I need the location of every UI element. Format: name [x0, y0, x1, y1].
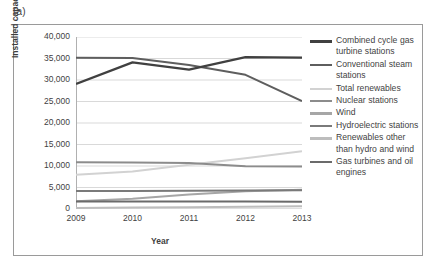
x-tick-label: 2010 [113, 213, 153, 223]
legend-label: Renewables other than hydro and wind [336, 132, 420, 155]
x-tick-label: 2013 [282, 213, 322, 223]
legend-item[interactable]: Wind [310, 107, 420, 118]
y-axis-ticks: 05,00010,00015,00020,00025,00030,00035,0… [22, 37, 70, 209]
y-tick-label: 10,000 [24, 160, 70, 170]
chart-figure: (a) Installed capacity (MW) 05,00010,000… [0, 0, 437, 273]
legend-item[interactable]: Combined cycle gas turbine stations [310, 35, 420, 58]
legend-swatch-icon [310, 137, 332, 139]
x-axis-title: Year [44, 236, 276, 246]
y-tick-label: 30,000 [24, 74, 70, 84]
y-tick-label: 20,000 [24, 117, 70, 127]
y-tick-label: 25,000 [24, 96, 70, 106]
legend-item[interactable]: Renewables other than hydro and wind [310, 132, 420, 155]
x-tick-label: 2011 [169, 213, 209, 223]
chart-frame: Installed capacity (MW) 05,00010,00015,0… [13, 24, 423, 256]
series-line [76, 206, 302, 208]
legend-swatch-icon [310, 40, 332, 43]
plot-area [76, 37, 302, 209]
legend-label: Combined cycle gas turbine stations [336, 35, 420, 58]
legend-label: Hydroelectric stations [336, 120, 418, 131]
legend-swatch-icon [310, 100, 332, 102]
x-tick-label: 2009 [56, 213, 96, 223]
legend-item[interactable]: Hydroelectric stations [310, 120, 420, 131]
legend-item[interactable]: Gas turbines and oil engines [310, 156, 420, 179]
series-line [76, 58, 302, 101]
y-tick-label: 15,000 [24, 139, 70, 149]
legend: Combined cycle gas turbine stationsConve… [310, 35, 420, 180]
x-axis-ticks: 20092010201120122013 [76, 213, 302, 227]
legend-item[interactable]: Conventional steam stations [310, 59, 420, 82]
y-tick-label: 40,000 [24, 31, 70, 41]
legend-label: Nuclear stations [336, 95, 398, 106]
legend-item[interactable]: Nuclear stations [310, 95, 420, 106]
legend-label: Conventional steam stations [336, 59, 420, 82]
series-canvas [76, 37, 302, 209]
y-tick-label: 5,000 [24, 182, 70, 192]
legend-swatch-icon [310, 88, 332, 90]
legend-swatch-icon [310, 112, 332, 114]
legend-item[interactable]: Total renewables [310, 83, 420, 94]
legend-label: Wind [336, 107, 356, 118]
legend-swatch-icon [310, 64, 332, 66]
legend-label: Gas turbines and oil engines [336, 156, 420, 179]
y-tick-label: 35,000 [24, 53, 70, 63]
y-tick-label: 0 [24, 203, 70, 213]
series-line [76, 190, 302, 191]
legend-swatch-icon [310, 125, 332, 127]
legend-swatch-icon [310, 161, 332, 163]
x-tick-label: 2012 [226, 213, 266, 223]
legend-label: Total renewables [336, 83, 401, 94]
